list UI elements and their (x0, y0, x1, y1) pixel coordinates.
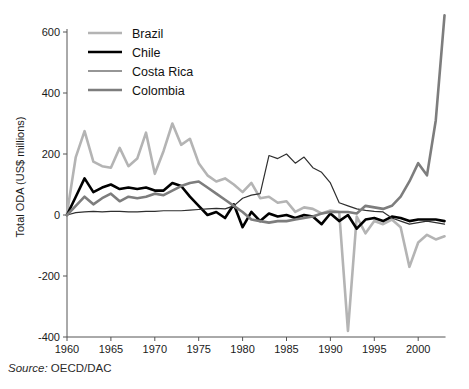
source-value: OECD/DAC (51, 362, 112, 374)
y-tick-label: -200 (38, 270, 60, 282)
x-tick-label: 1985 (274, 343, 298, 355)
y-tick-label: 0 (54, 209, 60, 221)
y-tick-label: 600 (42, 26, 60, 38)
label-layer: -400-20002004006001960196519701975198019… (14, 26, 430, 355)
x-tick-label: 1970 (143, 343, 167, 355)
oda-line-chart: BrazilChileCosta RicaColombia -400-20002… (0, 0, 469, 389)
y-axis-title: Total ODA (US$ millions) (14, 116, 26, 237)
x-tick-label: 1990 (318, 343, 342, 355)
source-label: Source: (8, 362, 48, 374)
y-tick-label: 400 (42, 87, 60, 99)
figure-container: BrazilChileCosta RicaColombia -400-20002… (0, 0, 469, 389)
series-line-brazil (67, 124, 445, 331)
source-note: Source: OECD/DAC (8, 362, 112, 374)
series-layer (67, 15, 445, 331)
legend-label-chile: Chile (132, 46, 161, 60)
x-tick-label: 1980 (230, 343, 254, 355)
x-tick-label: 1965 (99, 343, 123, 355)
legend-label-brazil: Brazil (132, 27, 163, 41)
y-tick-label: -400 (38, 331, 60, 343)
axes-layer (63, 29, 446, 341)
y-tick-label: 200 (42, 148, 60, 160)
x-tick-label: 1975 (186, 343, 210, 355)
legend-label-costa-rica: Costa Rica (132, 65, 193, 79)
legend-layer: BrazilChileCosta RicaColombia (88, 27, 193, 98)
x-tick-label: 1995 (362, 343, 386, 355)
x-tick-label: 2000 (406, 343, 430, 355)
x-tick-label: 1960 (55, 343, 79, 355)
legend-label-colombia: Colombia (132, 84, 185, 98)
